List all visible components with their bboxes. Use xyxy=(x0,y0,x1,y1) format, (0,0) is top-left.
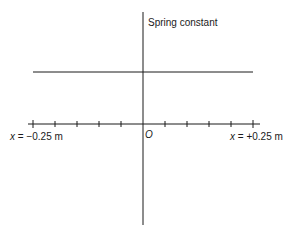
origin-label: O xyxy=(145,129,153,140)
x-min-label-value: = −0.25 m xyxy=(15,131,63,142)
y-axis-label: Spring constant xyxy=(148,17,218,28)
x-max-label-value: = +0.25 m xyxy=(235,131,283,142)
spring-constant-diagram: Spring constant O x = −0.25 m x = +0.25 … xyxy=(0,0,295,235)
x-max-label: x = +0.25 m xyxy=(229,131,283,142)
x-min-label: x = −0.25 m xyxy=(9,131,63,142)
